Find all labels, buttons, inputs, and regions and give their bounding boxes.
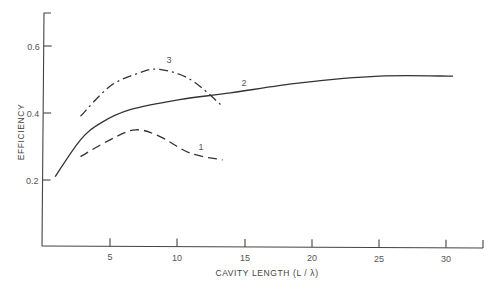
x-tick-label: 5 [107, 252, 112, 262]
curve-label-3: 3 [166, 55, 171, 65]
y-tick-label: 0.6 [27, 42, 40, 52]
x-tick-label: 10 [172, 253, 182, 263]
x-tick-label: 25 [374, 254, 384, 264]
x-tick-label: 15 [240, 253, 250, 263]
curve-label-2: 2 [241, 78, 246, 88]
x-axis [42, 246, 483, 248]
y-ticks: 0.20.40.6 [26, 42, 52, 186]
data-curves [55, 69, 453, 177]
curve-labels: 123 [166, 55, 246, 152]
x-tick-label: 30 [441, 254, 451, 264]
curve-3 [81, 69, 223, 116]
axes [42, 13, 483, 248]
x-tick-label: 20 [307, 253, 317, 263]
curve-2 [55, 76, 453, 177]
y-tick-label: 0.2 [26, 176, 39, 186]
efficiency-vs-cavity-length-chart: 0.20.40.6 51015202530 EFFICIENCY CAVITY … [0, 0, 496, 289]
curve-label-1: 1 [199, 142, 204, 152]
y-axis [42, 13, 51, 246]
x-ticks: 51015202530 [107, 238, 451, 264]
y-axis-title: EFFICIENCY [16, 104, 26, 161]
x-axis-title: CAVITY LENGTH (L / λ) [215, 268, 318, 278]
y-tick-label: 0.4 [27, 109, 40, 119]
